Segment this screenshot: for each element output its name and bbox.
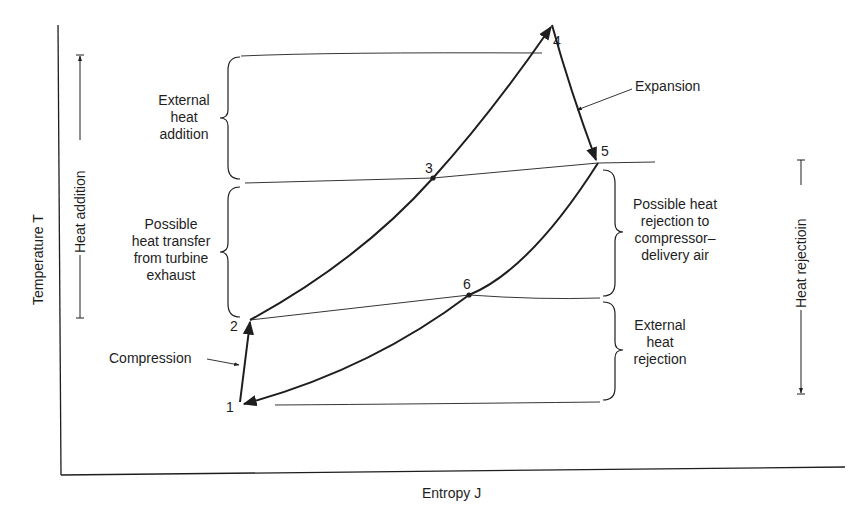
point-6-label: 6 — [463, 276, 471, 292]
possible-heat-transfer-label: Possible heat transfer from turbine exha… — [124, 216, 218, 284]
line-top-T4 — [241, 53, 542, 56]
x-axis-label: Entropy J — [422, 485, 481, 502]
temperature-lines — [241, 53, 655, 405]
point-3-dot — [430, 175, 435, 180]
heat-addition-label: Heat addition — [72, 168, 88, 255]
heat-rejection-label: Heat rejectioin — [793, 217, 809, 311]
brace-possible-heat-rejection — [603, 170, 623, 296]
line-bottom-T1 — [275, 402, 600, 405]
y-axis — [58, 25, 61, 475]
brace-possible-heat-transfer — [220, 187, 240, 317]
external-heat-addition-label: External heat addition — [150, 92, 218, 143]
x-axis — [61, 467, 845, 475]
line-T2-T6 — [250, 295, 600, 320]
point-6-dot — [466, 292, 471, 297]
point-1-label: 1 — [226, 399, 234, 415]
compression-pointer — [207, 359, 239, 365]
compression-label: Compression — [109, 350, 191, 367]
y-axis-label: Temperature T — [30, 214, 46, 305]
cooling-5-1 — [244, 163, 598, 404]
pointer-arrows — [207, 89, 632, 365]
expansion-pointer — [577, 89, 632, 110]
point-5-label: 5 — [601, 143, 609, 159]
compression-1-2 — [240, 322, 250, 402]
line-T3-T5 — [245, 162, 655, 183]
brace-external-heat-rejection — [603, 302, 623, 400]
expansion-label: Expansion — [635, 78, 700, 95]
heating-2-4 — [250, 27, 551, 320]
braces — [220, 57, 623, 400]
brace-external-heat-addition — [220, 57, 240, 179]
cycle-curves — [240, 25, 598, 404]
possible-heat-rejection-label: Possible heat rejection to compressor– d… — [626, 196, 724, 264]
external-heat-rejection-label: External heat rejection — [627, 317, 693, 368]
point-3-label: 3 — [425, 160, 433, 176]
point-4-label: 4 — [553, 33, 561, 49]
point-2-label: 2 — [230, 318, 238, 334]
